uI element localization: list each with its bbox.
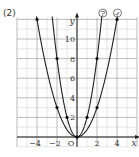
x-tick-label: −4: [29, 139, 41, 148]
x-tick-label: 2: [94, 139, 99, 148]
x-axis-label: x: [131, 138, 136, 148]
parabola-chart: −4−224246810Oxyアイ: [0, 0, 139, 157]
data-point: [75, 135, 78, 138]
data-point: [55, 106, 58, 109]
y-tick-label: 10: [65, 35, 75, 44]
y-tick-label: 8: [70, 55, 75, 64]
x-tick-label: −2: [49, 139, 61, 148]
y-tick-label: 2: [70, 113, 75, 122]
data-point: [95, 106, 98, 109]
y-tick-label: 6: [70, 74, 75, 83]
curve-label: ア: [100, 10, 106, 17]
x-tick-label: 4: [114, 139, 119, 148]
data-point: [95, 57, 98, 60]
data-point: [115, 18, 118, 21]
origin-label: O: [68, 139, 75, 148]
data-point: [55, 57, 58, 60]
curve-label: イ: [114, 10, 120, 17]
data-point: [85, 116, 88, 119]
y-axis-label: y: [68, 16, 75, 26]
y-tick-label: 4: [70, 94, 75, 103]
data-point: [35, 18, 38, 21]
y-axis-arrow-icon: [75, 12, 79, 17]
data-point: [65, 116, 68, 119]
